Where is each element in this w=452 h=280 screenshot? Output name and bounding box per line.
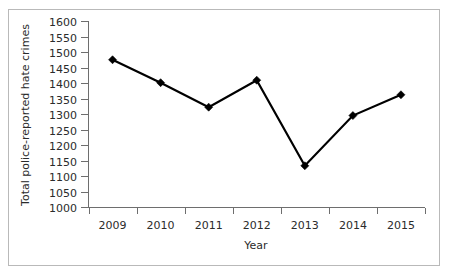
x-tick-label: 2010 xyxy=(147,219,175,232)
y-tick-label: 1600 xyxy=(49,16,77,29)
x-axis-tick-marks xyxy=(90,208,426,215)
y-tick-label: 1050 xyxy=(49,187,77,200)
x-tick-label: 2013 xyxy=(291,219,319,232)
x-tick-label: 2012 xyxy=(243,219,271,232)
data-point-marker xyxy=(397,91,405,99)
chart-figure: 1000105011001150120012501300135014001450… xyxy=(0,0,452,280)
x-tick-label: 2009 xyxy=(99,219,127,232)
x-tick-label: 2014 xyxy=(339,219,367,232)
y-tick-label: 1350 xyxy=(49,94,77,107)
x-axis-tick-labels: 2009201020112012201320142015 xyxy=(99,219,415,232)
y-tick-label: 1200 xyxy=(49,140,77,153)
y-axis-tick-marks xyxy=(81,22,89,208)
y-tick-label: 1150 xyxy=(49,156,77,169)
y-tick-label: 1400 xyxy=(49,78,77,91)
x-tick-label: 2011 xyxy=(195,219,223,232)
y-tick-label: 1250 xyxy=(49,125,77,138)
y-axis-tick-labels: 1000105011001150120012501300135014001450… xyxy=(49,16,77,215)
y-tick-label: 1300 xyxy=(49,109,77,122)
data-point-marker xyxy=(157,79,165,87)
x-tick-label: 2015 xyxy=(387,219,415,232)
x-axis-title: Year xyxy=(243,239,268,252)
y-tick-label: 1100 xyxy=(49,171,77,184)
y-tick-label: 1000 xyxy=(49,202,77,215)
y-tick-label: 1550 xyxy=(49,32,77,45)
data-point-marker xyxy=(109,56,117,64)
line-chart: 1000105011001150120012501300135014001450… xyxy=(0,0,452,280)
y-axis-title: Total police-reported hate crimes xyxy=(19,24,32,207)
y-tick-label: 1500 xyxy=(49,47,77,60)
data-series-line xyxy=(113,60,401,166)
y-tick-label: 1450 xyxy=(49,63,77,76)
